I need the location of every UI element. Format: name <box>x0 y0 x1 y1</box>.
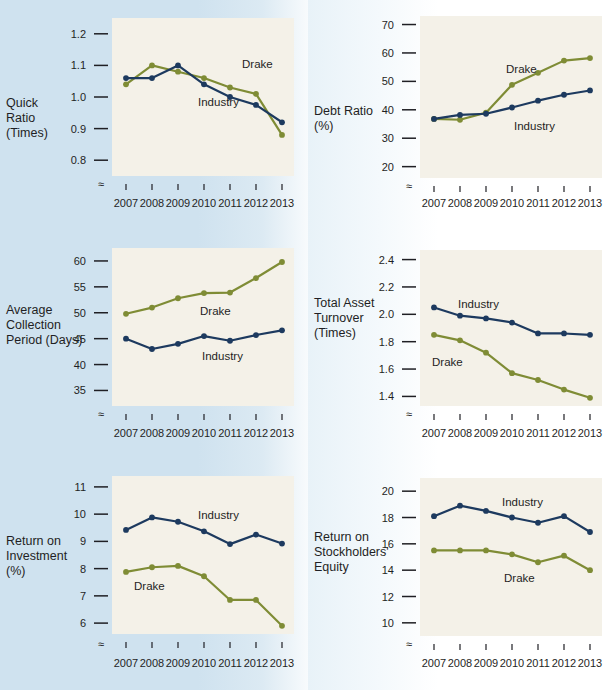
data-point <box>509 320 515 326</box>
x-tick-label: 2008 <box>448 427 472 439</box>
y-tick-label: 18 <box>382 512 394 524</box>
row-label-line: (%) <box>6 564 110 579</box>
data-point <box>201 75 207 81</box>
row-label-debt-ratio: Debt Ratio (%) <box>314 104 424 134</box>
y-tick-label: 30 <box>382 132 394 144</box>
y-tick-label: 2.4 <box>379 254 394 266</box>
x-tick-label: 2013 <box>578 657 602 669</box>
y-tick-label: 40 <box>74 359 86 371</box>
row-label-line: Average <box>6 303 110 318</box>
x-tick-label: 2007 <box>114 427 138 439</box>
x-tick-label: 2012 <box>244 197 268 209</box>
data-point <box>483 350 489 356</box>
data-point <box>279 623 285 629</box>
data-point <box>457 548 463 554</box>
x-tick-label: 2009 <box>166 657 190 669</box>
y-tick-label: 60 <box>382 47 394 59</box>
data-point <box>201 528 207 534</box>
data-point <box>123 311 129 317</box>
x-tick-label: 2008 <box>140 427 164 439</box>
row-label-line: (%) <box>314 119 424 134</box>
x-tick-label: 2009 <box>474 427 498 439</box>
y-tick-label: 60 <box>74 255 86 267</box>
series-annotation-industry: Industry <box>198 96 239 108</box>
data-point <box>587 88 593 94</box>
x-tick-label: 2010 <box>500 427 524 439</box>
y-tick-label: 10 <box>74 508 86 520</box>
series-line-industry <box>126 330 282 349</box>
row-label-line: Period (Days) <box>6 333 110 348</box>
data-point <box>253 275 259 281</box>
data-point <box>227 597 233 603</box>
data-point <box>561 58 567 64</box>
data-point <box>431 513 437 519</box>
data-point <box>123 81 129 87</box>
y-tick-label: 55 <box>74 281 86 293</box>
row-label-total-asset-turnover: Total Asset Turnover (Times) <box>314 296 424 341</box>
data-point <box>279 327 285 333</box>
data-point <box>201 81 207 87</box>
figure-root: Quick Ratio (Times) Quick Ratio (Times) … <box>0 0 616 690</box>
data-point <box>483 316 489 322</box>
row-label-line: Return on <box>314 530 424 545</box>
data-point <box>509 82 515 88</box>
y-tick-label: 1.2 <box>71 28 86 40</box>
data-point <box>227 338 233 344</box>
data-point <box>279 119 285 125</box>
data-point <box>457 313 463 319</box>
row-label-quick-ratio: Quick Ratio (Times) Quick Ratio (Times) <box>6 96 104 141</box>
data-point <box>535 559 541 565</box>
data-point <box>149 75 155 81</box>
data-point <box>457 112 463 118</box>
data-point <box>457 337 463 343</box>
data-point <box>483 111 489 117</box>
y-tick-label: 20 <box>382 485 394 497</box>
data-point <box>587 332 593 338</box>
axis-break-icon: ≈ <box>406 638 412 650</box>
y-tick-label: 35 <box>74 384 86 396</box>
data-point <box>175 295 181 301</box>
row-label-line: (Times) <box>314 326 424 341</box>
x-tick-label: 2012 <box>552 657 576 669</box>
x-tick-label: 2007 <box>114 197 138 209</box>
data-point <box>149 515 155 521</box>
x-tick-label: 2007 <box>422 197 446 209</box>
data-point <box>227 541 233 547</box>
data-point <box>587 395 593 401</box>
chart-total-asset-turnover: 1.41.61.82.02.22.4≈200720082009201020112… <box>308 230 616 460</box>
row-label-line: Ratio <box>6 111 104 126</box>
row-label-line: Turnover <box>314 311 424 326</box>
x-tick-label: 2008 <box>448 657 472 669</box>
series-annotation-drake: Drake <box>504 572 535 584</box>
data-point <box>587 567 593 573</box>
data-point <box>149 346 155 352</box>
x-tick-label: 2011 <box>218 197 242 209</box>
data-point <box>253 597 259 603</box>
x-tick-label: 2013 <box>578 427 602 439</box>
row-label-line: Debt Ratio <box>314 104 424 119</box>
data-point <box>279 259 285 265</box>
data-point <box>431 116 437 122</box>
data-point <box>123 336 129 342</box>
data-point <box>279 132 285 138</box>
data-point <box>175 563 181 569</box>
data-point <box>175 341 181 347</box>
data-point <box>149 305 155 311</box>
x-tick-label: 2007 <box>422 427 446 439</box>
data-point <box>509 105 515 111</box>
data-point <box>123 527 129 533</box>
data-point <box>483 508 489 514</box>
plot-svg: 101214161820≈200720082009201020112012201… <box>308 460 616 690</box>
x-tick-label: 2012 <box>552 427 576 439</box>
data-point <box>253 91 259 97</box>
y-tick-label: 12 <box>382 591 394 603</box>
series-annotation-industry: Industry <box>514 120 555 132</box>
data-point <box>175 63 181 69</box>
data-point <box>457 503 463 509</box>
row-label-line: Collection <box>6 318 110 333</box>
x-tick-label: 2010 <box>192 657 216 669</box>
y-tick-label: 20 <box>382 161 394 173</box>
x-tick-label: 2008 <box>448 197 472 209</box>
y-tick-label: 10 <box>382 617 394 629</box>
data-point <box>227 85 233 91</box>
